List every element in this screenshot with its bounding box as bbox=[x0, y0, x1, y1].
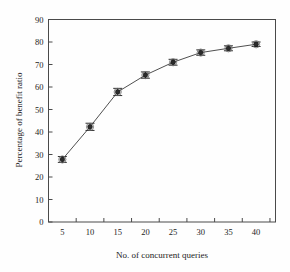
y-axis-ticks bbox=[49, 20, 53, 223]
y-axis-title: Percentage of benefit ratio bbox=[14, 72, 24, 168]
data-point bbox=[143, 73, 148, 78]
y-tick-label: 40 bbox=[35, 127, 44, 137]
y-tick-label: 0 bbox=[39, 217, 43, 227]
x-tick-label: 35 bbox=[224, 227, 233, 237]
x-tick-label: 15 bbox=[113, 227, 122, 237]
x-tick-label: 5 bbox=[60, 227, 64, 237]
data-point-markers bbox=[59, 41, 260, 163]
y-axis-tick-labels: 0102030405060708090 bbox=[35, 15, 44, 228]
y-tick-label: 10 bbox=[35, 195, 44, 205]
y-tick-label: 30 bbox=[35, 150, 44, 160]
plot-frame bbox=[49, 20, 276, 223]
data-point bbox=[88, 124, 93, 129]
data-point bbox=[171, 60, 176, 65]
x-tick-label: 25 bbox=[169, 227, 178, 237]
x-tick-label: 20 bbox=[141, 227, 150, 237]
y-tick-label: 50 bbox=[35, 105, 44, 115]
y-tick-label: 20 bbox=[35, 172, 44, 182]
benefit-ratio-line-chart: 0102030405060708090 510152025303540 No. … bbox=[0, 0, 290, 272]
x-tick-label: 40 bbox=[252, 227, 261, 237]
x-axis-ticks bbox=[76, 218, 270, 222]
data-point bbox=[198, 50, 203, 55]
x-tick-label: 30 bbox=[197, 227, 206, 237]
x-axis-title: No. of concurrent queries bbox=[116, 250, 208, 260]
y-tick-label: 80 bbox=[35, 37, 44, 47]
x-axis-tick-labels: 510152025303540 bbox=[60, 227, 260, 237]
y-tick-label: 60 bbox=[35, 82, 44, 92]
x-tick-label: 10 bbox=[86, 227, 95, 237]
data-point bbox=[60, 157, 65, 162]
y-tick-label: 70 bbox=[35, 60, 44, 70]
y-tick-label: 90 bbox=[35, 15, 44, 25]
data-point bbox=[226, 46, 231, 51]
data-point bbox=[115, 90, 120, 95]
series-line bbox=[62, 44, 256, 159]
error-bars bbox=[58, 42, 261, 162]
data-point bbox=[254, 42, 259, 47]
chart-figure: 0102030405060708090 510152025303540 No. … bbox=[0, 0, 290, 272]
